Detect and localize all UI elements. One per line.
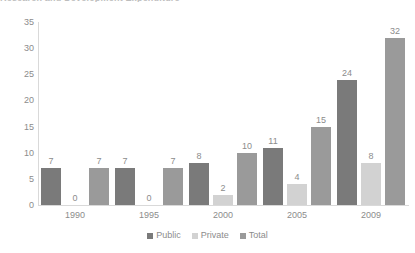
bar-slot[interactable]: 7 <box>89 22 109 205</box>
bar-group-bars: 707 <box>112 22 186 205</box>
bar-total[interactable] <box>385 38 405 205</box>
bar-value-label: 8 <box>368 152 373 161</box>
bar-total[interactable] <box>163 168 183 205</box>
bar-value-label: 7 <box>48 157 53 166</box>
chart-legend: PublicPrivateTotal <box>0 231 415 240</box>
y-axis-tick: 20 <box>8 96 34 105</box>
legend-item-private[interactable]: Private <box>192 231 229 240</box>
bar-slot[interactable]: 0 <box>65 22 85 205</box>
bar-slot[interactable]: 32 <box>385 22 405 205</box>
y-axis-tick: 35 <box>8 18 34 27</box>
bar-slot[interactable]: 15 <box>311 22 331 205</box>
bar-group: 11415 <box>260 22 334 205</box>
bar-value-label: 7 <box>170 157 175 166</box>
legend-swatch-icon <box>147 233 153 239</box>
y-axis-tick: 25 <box>8 70 34 79</box>
bar-slot[interactable]: 10 <box>237 22 257 205</box>
bar-slot[interactable]: 7 <box>115 22 135 205</box>
bar-group: 707 <box>112 22 186 205</box>
bar-value-label: 0 <box>146 194 151 203</box>
bar-slot[interactable]: 0 <box>139 22 159 205</box>
x-axis-line <box>38 205 409 206</box>
bar-group: 24832 <box>334 22 408 205</box>
plot-region: 70770782101141524832 <box>38 22 408 205</box>
legend-swatch-icon <box>240 233 246 239</box>
x-axis-tick: 2009 <box>334 211 408 220</box>
legend-label: Total <box>249 231 268 240</box>
bar-value-label: 24 <box>342 69 352 78</box>
bar-group-bars: 8210 <box>186 22 260 205</box>
bar-slot[interactable]: 8 <box>189 22 209 205</box>
bar-chart: 05101520253035 70770782101141524832 1990… <box>0 0 415 253</box>
legend-item-total[interactable]: Total <box>240 231 268 240</box>
bar-value-label: 7 <box>96 157 101 166</box>
y-axis-tick: 10 <box>8 148 34 157</box>
bar-value-label: 10 <box>242 142 252 151</box>
bar-group-bars: 24832 <box>334 22 408 205</box>
x-axis-tick: 1990 <box>38 211 112 220</box>
bar-public[interactable] <box>189 163 209 205</box>
bar-public[interactable] <box>41 168 61 205</box>
bar-total[interactable] <box>89 168 109 205</box>
bar-slot[interactable]: 11 <box>263 22 283 205</box>
bar-value-label: 0 <box>72 194 77 203</box>
x-axis-tick: 2000 <box>186 211 260 220</box>
legend-swatch-icon <box>192 233 198 239</box>
bar-slot[interactable]: 7 <box>41 22 61 205</box>
x-axis-tick: 1995 <box>112 211 186 220</box>
x-axis-tick: 2005 <box>260 211 334 220</box>
bar-value-label: 2 <box>220 184 225 193</box>
bar-value-label: 32 <box>390 27 400 36</box>
bar-private[interactable] <box>213 195 233 205</box>
bar-slot[interactable]: 24 <box>337 22 357 205</box>
bar-public[interactable] <box>115 168 135 205</box>
legend-label: Public <box>156 231 181 240</box>
bar-total[interactable] <box>237 153 257 205</box>
bar-public[interactable] <box>337 80 357 205</box>
bar-group-bars: 11415 <box>260 22 334 205</box>
bar-group: 707 <box>38 22 112 205</box>
bar-value-label: 11 <box>268 137 277 146</box>
y-axis-tick: 30 <box>8 44 34 53</box>
bar-private[interactable] <box>287 184 307 205</box>
bar-value-label: 7 <box>122 157 127 166</box>
bar-private[interactable] <box>361 163 381 205</box>
bar-slot[interactable]: 7 <box>163 22 183 205</box>
bar-slot[interactable]: 8 <box>361 22 381 205</box>
bar-public[interactable] <box>263 148 283 206</box>
y-axis-tick: 15 <box>8 122 34 131</box>
bar-value-label: 8 <box>196 152 201 161</box>
legend-item-public[interactable]: Public <box>147 231 181 240</box>
bar-slot[interactable]: 2 <box>213 22 233 205</box>
bar-slot[interactable]: 4 <box>287 22 307 205</box>
legend-label: Private <box>201 231 229 240</box>
bar-value-label: 4 <box>294 173 299 182</box>
y-axis-tick: 0 <box>8 201 34 210</box>
y-axis-tick: 5 <box>8 174 34 183</box>
bar-group-bars: 707 <box>38 22 112 205</box>
bar-total[interactable] <box>311 127 331 205</box>
bar-group: 8210 <box>186 22 260 205</box>
bar-value-label: 15 <box>316 116 326 125</box>
